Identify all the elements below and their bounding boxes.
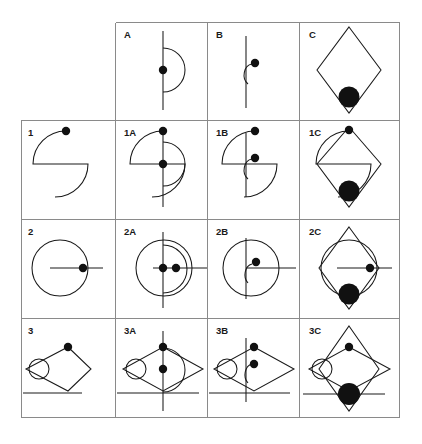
wide-diamond-icon [214, 347, 294, 391]
offset-dot-icon [172, 264, 180, 272]
large-filled-circle-icon [338, 383, 360, 405]
shape-C [317, 27, 381, 113]
cell-label-3B: 3B [216, 325, 228, 336]
top-dot-icon [345, 126, 353, 134]
shape-3A [117, 331, 203, 411]
cell-3B: 3B [209, 325, 294, 402]
cell-2A: 2A [124, 226, 207, 308]
large-filled-circle-icon [339, 284, 360, 305]
cell-2C: 2C [309, 226, 392, 309]
cell-label-1A: 1A [124, 127, 136, 138]
cell-label-1B: 1B [216, 127, 228, 138]
cell-label-C: C [309, 29, 316, 40]
cell-B: B [216, 29, 259, 108]
matrix-canvas: A B C 1 [0, 0, 422, 444]
cell-label-2C: 2C [309, 226, 321, 237]
end-dot-icon [251, 127, 259, 135]
center-dot-icon [159, 365, 167, 373]
center-dot-icon [159, 160, 167, 168]
spiral-s-curve-icon [130, 131, 185, 197]
center-dot-icon [159, 264, 167, 272]
cell-2: 2 [28, 226, 103, 296]
shape-2A [136, 232, 207, 308]
shape-3C [303, 326, 390, 411]
hook-dot-icon [252, 258, 260, 266]
cell-label-3C: 3C [309, 325, 321, 336]
end-dot-icon [62, 127, 70, 135]
cell-2B: 2B [216, 226, 296, 299]
grid-lines [22, 23, 400, 418]
shape-2B [223, 238, 296, 299]
cell-label-A: A [124, 29, 131, 40]
cell-1C: 1C [309, 126, 381, 207]
large-filled-circle-icon [339, 87, 360, 108]
cell-1B: 1B [216, 127, 277, 197]
spiral-s-curve-icon [222, 131, 277, 197]
cell-3: 3 [23, 325, 91, 393]
hook-dot-icon [251, 154, 259, 162]
shape-B [244, 36, 259, 108]
cell-3C: 3C [303, 325, 390, 411]
center-dot-icon [366, 264, 374, 272]
cell-3A: 3A [117, 325, 203, 411]
cell-label-2: 2 [28, 226, 33, 237]
shape-1 [33, 127, 88, 197]
cell-label-1C: 1C [309, 127, 321, 138]
top-dot-icon [159, 343, 167, 351]
cell-label-3: 3 [28, 325, 33, 336]
shape-2 [32, 240, 103, 296]
center-dot-icon [159, 66, 167, 74]
shape-3 [23, 343, 91, 393]
shape-1C [316, 126, 381, 207]
cell-label-3A: 3A [124, 325, 136, 336]
cell-label-2A: 2A [124, 226, 136, 237]
top-dot-icon [159, 127, 167, 135]
cell-label-2B: 2B [216, 226, 228, 237]
shape-matrix-figure: A B C 1 [0, 0, 422, 444]
large-filled-circle-icon [339, 181, 360, 202]
shape-1A [130, 127, 185, 207]
small-hook-icon [244, 64, 252, 84]
shape-2C [319, 227, 392, 309]
center-dot-icon [79, 264, 87, 272]
shape-1B [222, 127, 277, 197]
hook-dot-icon [251, 59, 259, 67]
hook-dot-icon [250, 360, 258, 368]
cell-C: C [309, 27, 381, 113]
cell-1A: 1A [124, 127, 185, 207]
cell-label-B: B [216, 29, 223, 40]
top-dot-icon [250, 343, 258, 351]
wide-diamond-icon [26, 347, 91, 391]
top-dot-icon [345, 343, 353, 351]
shape-A [159, 31, 185, 110]
small-hook-icon [244, 159, 252, 179]
top-dot-icon [64, 343, 72, 351]
spiral-s-curve-icon [33, 131, 88, 197]
cell-label-1: 1 [28, 127, 34, 138]
shape-3B [209, 338, 294, 402]
cell-1: 1 [28, 127, 88, 197]
cell-A: A [124, 29, 185, 110]
